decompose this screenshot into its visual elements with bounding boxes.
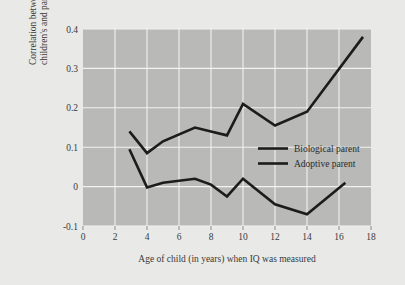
x-tick-label: 8	[209, 232, 214, 242]
y-tick-label: 0	[73, 182, 78, 192]
x-tick-label: 14	[302, 232, 312, 242]
x-tick-label: 4	[145, 232, 150, 242]
y-tick-label: 0.4	[66, 25, 78, 35]
x-tick-label: 10	[238, 232, 248, 242]
legend-label-biological-parent: Biological parent	[294, 144, 360, 154]
y-axis-title-line-1: Correlation between	[28, 0, 38, 65]
y-tick-label: 0.3	[66, 64, 78, 74]
correlation-line-chart: 0.40.30.20.10-0.1 024681012141618 Biolog…	[0, 0, 405, 285]
x-tick-label: 2	[113, 232, 118, 242]
x-tick-label: 18	[366, 232, 376, 242]
y-axis-title-line-2: children's and parents' IQ scores	[39, 0, 49, 65]
legend-label-adoptive-parent: Adoptive parent	[294, 159, 356, 169]
x-tick-label: 0	[81, 232, 86, 242]
x-tick-label: 12	[270, 232, 280, 242]
y-tick-label: 0.2	[66, 103, 78, 113]
x-axis-title: Age of child (in years) when IQ was meas…	[138, 254, 316, 265]
x-tick-label: 6	[177, 232, 182, 242]
y-tick-label: -0.1	[63, 222, 78, 232]
y-tick-label: 0.1	[66, 143, 78, 153]
x-tick-label: 16	[334, 232, 344, 242]
chart-figure: 0.40.30.20.10-0.1 024681012141618 Biolog…	[0, 0, 405, 285]
